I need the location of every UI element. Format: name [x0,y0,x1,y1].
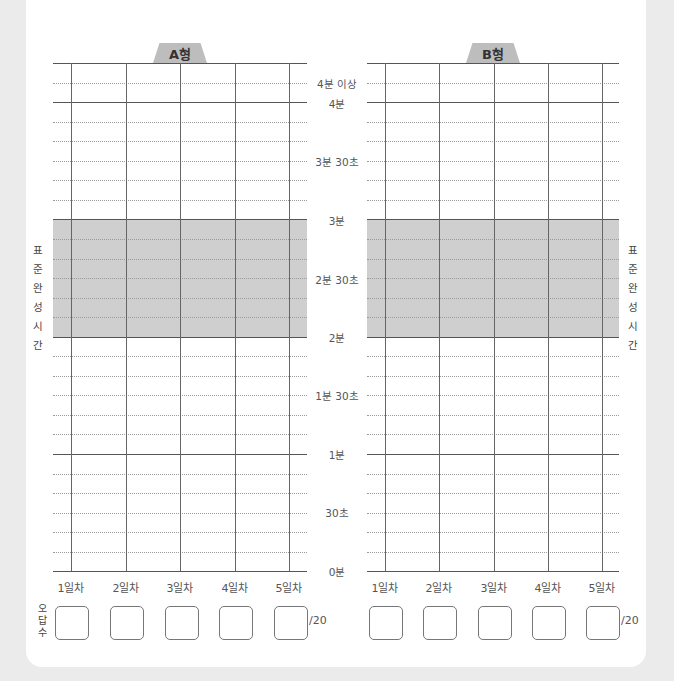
x-label-a-day2: 2일차 [113,579,140,595]
wrong-answers-a-day3[interactable] [165,606,199,640]
grid-line-minor [367,239,619,240]
wrong-answers-b-day5[interactable] [586,606,620,640]
wrong-answers-b-day3[interactable] [478,606,512,640]
grid-column-line [439,63,440,571]
grid-line-major [53,571,307,572]
chart-a-tab: A형 [153,43,207,63]
x-label-a-day1: 1일차 [58,579,85,595]
grid-line-minor [367,298,619,299]
grid-line-minor [367,317,619,318]
grid-line-minor [367,180,619,181]
standard-time-label-left: 표준완성시간 [32,241,44,355]
grid-line-minor [367,83,619,84]
grid-line-minor [367,434,619,435]
chart-b-tab: B형 [466,43,520,63]
grid-line-minor [367,493,619,494]
x-label-b-day4: 4일차 [535,579,562,595]
grid-line-minor [367,161,619,162]
grid-line-major [367,102,619,103]
grid-line-minor [367,395,619,396]
x-label-b-day5: 5일차 [589,579,616,595]
wrong-answers-b-day4[interactable] [532,606,566,640]
grid-column-line [126,63,127,571]
x-label-a-day5: 5일차 [276,579,303,595]
grid-line-minor [367,532,619,533]
y-label-3min30: 3분 30초 [307,154,367,169]
y-label-4min: 4분 [307,96,367,111]
grid-line-minor [367,122,619,123]
grid-column-line [548,63,549,571]
grid-column-line [71,63,72,571]
x-label-a-day3: 3일차 [167,579,194,595]
wrong-answers-label: 오답수 [36,603,48,639]
grid-column-line [385,63,386,571]
grid-line-minor [367,356,619,357]
grid-column-line [494,63,495,571]
grid-column-line [289,63,290,571]
x-label-b-day1: 1일차 [372,579,399,595]
x-label-a-day4: 4일차 [222,579,249,595]
grid-line-minor [367,552,619,553]
y-label-1min: 1분 [307,447,367,462]
grid-line-minor [367,141,619,142]
y-label-3min: 3분 [307,213,367,228]
grid-column-line [180,63,181,571]
chart-a: A형 [53,63,307,571]
y-label-2min: 2분 [307,330,367,345]
y-label-0min: 0분 [307,564,367,579]
grid-line-minor [367,513,619,514]
y-label-over-4min: 4분 이상 [307,76,367,91]
wrong-answers-a-day4[interactable] [219,606,253,640]
standard-time-label-right: 표준완성시간 [627,241,639,355]
y-label-1min30: 1분 30초 [307,388,367,403]
wrong-answers-a-day1[interactable] [55,606,89,640]
wrong-answers-a-day2[interactable] [110,606,144,640]
grid-line-major [367,219,619,220]
wrong-answers-total-a: /20 [309,614,327,627]
wrong-answers-a-day5[interactable] [274,606,308,640]
grid-line-major [367,454,619,455]
wrong-answers-b-day1[interactable] [369,606,403,640]
grid-line-minor [367,474,619,475]
y-label-30sec: 30초 [307,505,367,520]
grid-line-major [367,571,619,572]
grid-line-minor [367,200,619,201]
x-label-b-day2: 2일차 [426,579,453,595]
grid-line-minor [367,415,619,416]
grid-column-line [602,63,603,571]
chart-b: B형 [367,63,619,571]
grid-line-minor [367,259,619,260]
grid-line-minor [367,376,619,377]
grid-line-minor [367,278,619,279]
grid-line-major [367,337,619,338]
x-label-b-day3: 3일차 [481,579,508,595]
wrong-answers-b-day2[interactable] [423,606,457,640]
grid-column-line [235,63,236,571]
y-label-2min30: 2분 30초 [307,272,367,287]
grid-line-major [367,63,619,64]
wrong-answers-total-b: /20 [621,614,639,627]
